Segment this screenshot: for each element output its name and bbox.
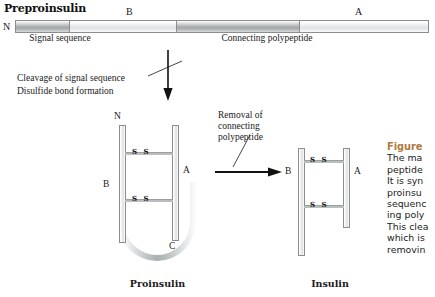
insulin-disulfide-label-1: S S [310, 155, 329, 164]
proinsulin-n-terminus-label: N [114, 111, 121, 121]
proinsulin-a-chain-rod [172, 125, 179, 241]
label-connecting-polypeptide: Connecting polypeptide [212, 33, 322, 44]
chain-bar-label-b: B [126, 6, 133, 17]
proinsulin-a-chain-label: A [183, 165, 190, 175]
label-cleavage-of-signal-sequence: Cleavage of signal sequence [17, 72, 125, 85]
chain-n-terminus-label: N [3, 20, 10, 33]
figure-caption-body: The ma peptide It is syn proinsu sequenc… [387, 152, 435, 255]
connecting-polypeptide-loop [118, 109, 196, 261]
label-signal-sequence: Signal sequence [17, 33, 103, 44]
proinsulin-b-chain-label: B [103, 179, 109, 189]
proinsulin-structure: S S S S N C B A [96, 103, 216, 268]
figure-caption-heading: Figure [387, 141, 435, 152]
figure-caption-panel: Figure The ma peptide It is syn proinsu … [387, 141, 435, 297]
segment-signal-sequence [16, 21, 70, 32]
insulin-disulfide-label-2: S S [310, 200, 329, 209]
label-removal-of-connecting-polypeptide: Removal of connecting polypeptide [218, 110, 298, 143]
leader-line-removal [232, 135, 252, 169]
insulin-a-chain-rod [343, 148, 350, 228]
arrow-down-icon [160, 50, 176, 102]
segment-a-chain [300, 21, 428, 32]
chain-bar-label-a: A [355, 6, 362, 17]
insulin-structure: S S S S B A [290, 140, 370, 260]
proinsulin-caption: Proinsulin [105, 278, 210, 289]
segment-connecting-polypeptide [177, 21, 301, 32]
proinsulin-disulfide-label-1: S S [132, 147, 151, 156]
label-disulfide-bond-formation: Disulfide bond formation [17, 85, 114, 98]
insulin-a-chain-label: A [354, 166, 361, 176]
insulin-b-chain-label: B [285, 166, 291, 176]
page-title: Preproinsulin [4, 2, 86, 15]
proinsulin-disulfide-label-2: S S [132, 194, 151, 203]
insulin-caption: Insulin [285, 278, 375, 289]
preproinsulin-chain-bar [15, 20, 429, 33]
segment-b-chain [70, 21, 177, 32]
insulin-b-chain-rod [298, 148, 305, 256]
proinsulin-b-chain-rod [119, 125, 126, 243]
proinsulin-c-terminus-label: C [169, 241, 175, 251]
arrow-right-icon [215, 165, 283, 179]
